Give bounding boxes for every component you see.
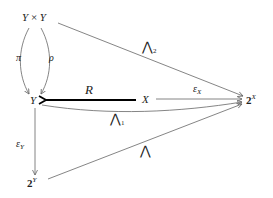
r-text: R (85, 82, 93, 97)
node-y-times-y: Y × Y (22, 12, 46, 23)
label-wedge2: ⋀2 (142, 40, 157, 55)
eps-y-subscript: Y (20, 143, 24, 151)
arrow-wedge (48, 104, 242, 179)
node-2-power-x: 2X (246, 94, 256, 106)
eps-x-subscript: X (197, 88, 201, 96)
wedge1-symbol: ⋀ (110, 111, 121, 126)
label-eps-x: εX (193, 84, 201, 96)
diagram-canvas (0, 0, 273, 198)
wedge1-subscript: 1 (121, 119, 125, 127)
node-2-power-y-exp: Y (33, 176, 37, 184)
wedge2-symbol: ⋀ (142, 39, 153, 54)
node-2-power-x-exp: X (252, 93, 256, 101)
node-y-label: Y (30, 94, 36, 106)
label-eps-y: εY (16, 139, 24, 151)
pi-text: π (16, 52, 21, 63)
label-pi: π (16, 53, 21, 63)
label-r: R (85, 83, 93, 96)
label-wedge1: ⋀1 (110, 112, 125, 127)
node-y-times-y-left: Y (22, 11, 28, 23)
wedge-symbol: ⋀ (140, 143, 151, 158)
node-y: Y (30, 95, 36, 106)
arrow-pi (20, 28, 29, 94)
label-wedge: ⋀ (140, 144, 151, 157)
node-x: X (142, 94, 149, 105)
node-y-times-y-right: Y (40, 11, 46, 23)
node-x-label: X (142, 93, 149, 105)
times-symbol: × (31, 11, 37, 23)
rho-text: ρ (49, 52, 54, 63)
wedge2-subscript: 2 (153, 47, 157, 55)
node-2-power-y: 2Y (27, 177, 36, 189)
label-rho: ρ (49, 53, 54, 63)
